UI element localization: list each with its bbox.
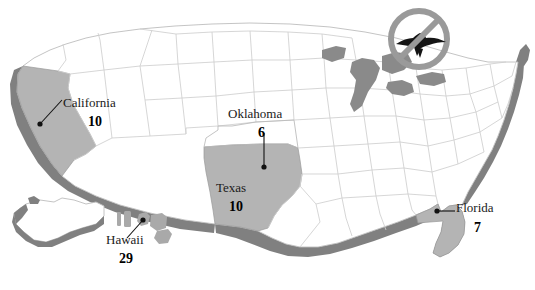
dot-oklahoma [261,164,266,169]
callout-label-hawaii: Hawaii [106,233,144,246]
alaska-inset [12,196,104,247]
callout-value-hawaii: 29 [119,252,133,266]
map-figure: California 10 Oklahoma 6 Texas 10 Florid… [0,0,535,290]
callout-label-california: California [63,96,116,109]
callout-label-texas: Texas [216,181,246,194]
dot-california [37,121,42,126]
callout-value-florida: 7 [474,221,481,235]
dot-florida [434,208,439,213]
dot-hawaii [140,217,145,222]
us-map-graphic [0,0,535,290]
callout-value-california: 10 [88,115,102,129]
callout-value-oklahoma: 6 [258,126,265,140]
callout-value-texas: 10 [229,200,243,214]
callout-label-florida: Florida [456,201,494,214]
callout-label-oklahoma: Oklahoma [228,107,282,120]
